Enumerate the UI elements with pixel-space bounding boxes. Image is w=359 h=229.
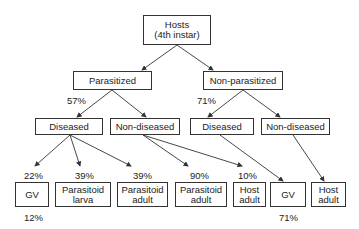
node-parasitoid-adult-2-label: Parasitoid adult <box>180 185 222 205</box>
node-hosts: Hosts (4th instar) <box>143 15 211 45</box>
node-parasitized: Parasitized <box>73 71 152 90</box>
pct-gv-1: 22% <box>24 171 43 181</box>
edge-root-parasitized <box>142 45 177 70</box>
pct-parasitized-diseased: 57% <box>67 96 86 106</box>
node-p-diseased-label: Diseased <box>49 122 89 132</box>
edge-diseased-gv <box>35 135 70 166</box>
node-p-diseased: Diseased <box>35 118 103 135</box>
node-np-non-diseased-label: Non-diseased <box>266 122 325 132</box>
node-parasitoid-larva: Parasitoid larva <box>55 182 111 207</box>
edge-root-nonparasitized <box>177 45 213 70</box>
node-parasitoid-adult-1-label: Parasitoid adult <box>121 185 163 205</box>
edge-parasitized-nondiseased <box>112 90 146 117</box>
node-host-adult-1: Host adult <box>233 182 266 207</box>
pct-parasitoid-adult-1: 39% <box>133 171 152 181</box>
edge-diseased-adult <box>70 135 131 166</box>
node-gv-2-label: GV <box>281 190 295 200</box>
node-np-non-diseased: Non-diseased <box>261 118 330 135</box>
edge-nondiseased-parasitoid-adult <box>143 135 188 166</box>
node-parasitoid-adult-2: Parasitoid adult <box>175 182 227 207</box>
pct-parasitoid-larva: 39% <box>75 171 94 181</box>
node-parasitoid-adult-1: Parasitoid adult <box>117 182 168 207</box>
node-parasitized-label: Parasitized <box>89 76 136 86</box>
edge-np-nondiseased-host-adult <box>293 135 324 181</box>
pct-gv-2-below: 71% <box>279 213 298 223</box>
node-host-adult-2: Host adult <box>311 182 346 207</box>
node-np-diseased: Diseased <box>190 118 254 135</box>
node-hosts-label: Hosts (4th instar) <box>154 20 199 40</box>
node-parasitoid-larva-label: Parasitoid larva <box>62 185 104 205</box>
node-non-parasitized: Non-parasitized <box>203 71 283 90</box>
node-non-parasitized-label: Non-parasitized <box>210 76 277 86</box>
node-gv-1-label: GV <box>25 190 39 200</box>
edge-nondiseased-host-adult <box>143 135 242 166</box>
pct-non-parasitized-diseased: 71% <box>197 96 216 106</box>
pct-gv-1-below: 12% <box>24 213 43 223</box>
node-gv-2: GV <box>270 182 306 207</box>
pct-host-adult-1: 10% <box>238 171 257 181</box>
pct-parasitoid-adult-2: 90% <box>190 171 209 181</box>
node-host-adult-1-label: Host adult <box>239 185 260 205</box>
node-p-non-diseased: Non-diseased <box>110 118 180 135</box>
node-gv-1: GV <box>15 182 49 207</box>
edge-nonparasitized-nondiseased <box>243 90 280 117</box>
node-host-adult-2-label: Host adult <box>318 185 339 205</box>
node-p-non-diseased-label: Non-diseased <box>116 122 175 132</box>
node-np-diseased-label: Diseased <box>202 122 242 132</box>
